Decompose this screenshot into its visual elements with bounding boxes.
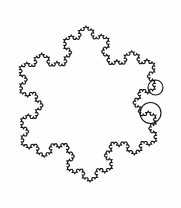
fractal-figure	[0, 0, 181, 208]
koch-snowflake-svg	[0, 0, 181, 208]
self-similarity-annotations	[140, 80, 163, 124]
upper-zoom-circle	[148, 80, 163, 95]
koch-snowflake-outline	[19, 26, 156, 182]
